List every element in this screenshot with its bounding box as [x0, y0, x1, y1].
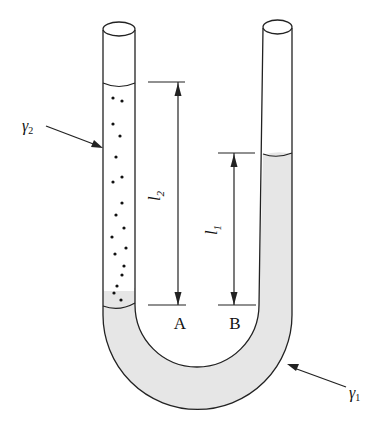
u-tube-diagram: l2 l1 A B γ2 γ1	[0, 0, 386, 429]
svg-text:γ2: γ2	[22, 117, 33, 136]
gamma1-pointer: γ1	[287, 364, 360, 403]
gamma2-meniscus-top	[103, 83, 135, 87]
arrowhead-icon	[91, 140, 103, 148]
left-tube-opening	[103, 22, 135, 36]
point-a-label: A	[174, 314, 187, 333]
l1-dimension	[218, 153, 256, 305]
l1-label: l1	[202, 225, 223, 235]
l2-label: l2	[145, 190, 166, 201]
svg-text:γ1: γ1	[349, 384, 360, 403]
gamma2-liquid	[104, 86, 134, 291]
svg-text:l1: l1	[202, 225, 223, 235]
point-b-label: B	[229, 314, 240, 333]
gamma2-pointer: γ2	[22, 117, 103, 148]
right-tube-opening	[263, 20, 292, 34]
svg-text:l2: l2	[145, 190, 166, 201]
arrowhead-icon	[287, 364, 299, 371]
